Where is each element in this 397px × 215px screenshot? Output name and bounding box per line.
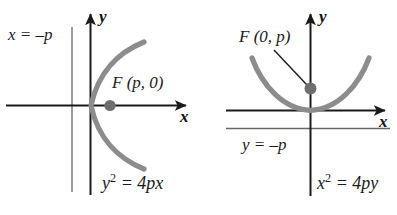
directrix-label-left: x = –p [8, 26, 53, 43]
x-axis-label-right: x [379, 113, 388, 130]
directrix-label-right: y = –p [242, 136, 287, 153]
equation-rest-right: = 4py [331, 173, 378, 193]
equation-rest-left: = 4px [116, 173, 163, 193]
parabola-figure: x = –p F (p, 0) y2 = 4px x y F (0, p) y … [0, 0, 397, 215]
equation-base-left: y [102, 173, 110, 193]
focus-label-left: F (p, 0) [112, 74, 163, 91]
y-axis-label-right: y [319, 8, 327, 25]
focus-point-left [104, 100, 115, 111]
focus-label-right: F (0, p) [239, 28, 290, 45]
focus-leader-line-right [274, 50, 307, 85]
x-axis-label-left: x [180, 108, 189, 125]
equation-label-left: y2 = 4px [102, 172, 163, 192]
equation-base-right: x [317, 173, 325, 193]
focus-point-right [305, 83, 317, 95]
y-axis-label-left: y [99, 8, 107, 25]
equation-label-right: x2 = 4py [317, 172, 378, 192]
